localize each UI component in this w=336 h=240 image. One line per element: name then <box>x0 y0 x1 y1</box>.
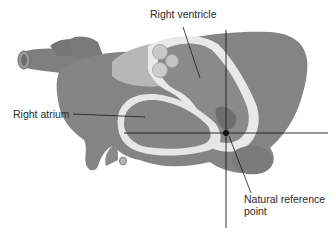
label-right-atrium: Right atrium <box>13 108 70 120</box>
label-natural-reference-line2: point <box>244 205 267 217</box>
reference-point-marker <box>223 130 229 136</box>
heart-diagram: Right ventricle Right atrium Natural ref… <box>0 0 336 240</box>
lower-bulge <box>232 146 273 175</box>
label-right-ventricle: Right ventricle <box>150 8 217 20</box>
label-natural-reference-line1: Natural reference <box>244 193 325 205</box>
